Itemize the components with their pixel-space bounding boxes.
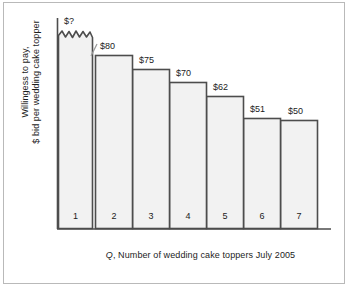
bar-2[interactable] — [96, 56, 133, 229]
bar-value-label-7: $50 — [288, 106, 303, 116]
y-axis-title-line2: $ bid per wedding cake topper — [31, 20, 41, 143]
bar-3[interactable] — [133, 70, 170, 229]
bar-category-label-4: 4 — [169, 211, 207, 221]
bar-4[interactable] — [170, 83, 207, 229]
bar-category-label-1: 1 — [58, 211, 93, 221]
bar-category-label-7: 7 — [280, 211, 318, 221]
bar-category-label-2: 2 — [95, 211, 133, 221]
bar-category-label-3: 3 — [132, 211, 170, 221]
bar-chart-plot — [0, 0, 354, 288]
bar-value-label-5: $62 — [213, 82, 228, 92]
figure-container: Willingess to pay,$ bid per wedding cake… — [0, 0, 354, 288]
bar-5[interactable] — [207, 97, 244, 229]
bar-value-label-6: $51 — [250, 104, 265, 114]
bar-value-label-3: $75 — [139, 55, 154, 65]
bar-category-label-5: 5 — [206, 211, 244, 221]
bar-1[interactable] — [59, 31, 93, 229]
bar-value-label-2: $80 — [100, 41, 115, 51]
x-axis-title-variable: Q — [106, 250, 113, 260]
x-axis-title: Q, Number of wedding cake toppers July 2… — [58, 250, 343, 260]
bar-category-label-6: 6 — [243, 211, 281, 221]
bar-value-label-1: $? — [64, 16, 74, 26]
y-axis-title-line1: Willingess to pay, — [20, 46, 30, 117]
bar-value-label-4: $70 — [176, 68, 191, 78]
y-axis-title: Willingess to pay,$ bid per wedding cake… — [20, 0, 42, 182]
x-axis-title-text: , Number of wedding cake toppers July 20… — [113, 250, 295, 260]
